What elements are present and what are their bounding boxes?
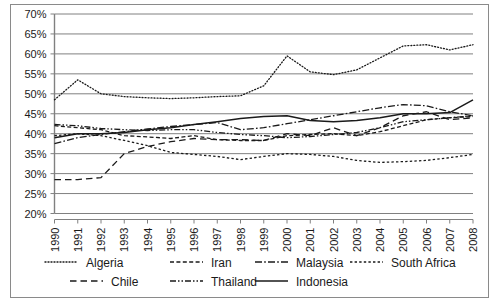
series-line-algeria	[55, 45, 474, 100]
y-axis-tick-label: 40%	[24, 128, 46, 140]
y-axis-tick-label: 50%	[24, 88, 46, 100]
legend-label: Malaysia	[296, 256, 344, 270]
x-axis-tick-label: 1995	[165, 228, 177, 252]
legend-label: Iran	[211, 256, 232, 270]
line-chart: 20%25%30%35%40%45%50%55%60%65%70%1990199…	[0, 0, 499, 307]
legend-item-malaysia[interactable]: Malaysia	[255, 256, 344, 270]
y-axis-tick-label: 25%	[24, 188, 46, 200]
y-axis-tick-label: 35%	[24, 148, 46, 160]
legend: AlgeriaIranMalaysiaSouth AfricaChileThai…	[45, 256, 456, 289]
series-line-thailand	[55, 116, 474, 138]
x-axis-tick-label: 1991	[72, 228, 84, 252]
x-axis-tick-label: 1996	[188, 228, 200, 252]
x-axis-tick-label: 1993	[118, 228, 130, 252]
legend-item-thailand[interactable]: Thailand	[170, 275, 257, 289]
legend-label: Algeria	[86, 256, 124, 270]
x-axis-tick-label: 1999	[258, 228, 270, 252]
series-group	[55, 45, 474, 180]
legend-item-south-africa[interactable]: South Africa	[350, 256, 456, 270]
x-axis-tick-label: 2008	[467, 228, 479, 252]
y-axis-tick-label: 60%	[24, 48, 46, 60]
series-line-south-africa	[55, 134, 474, 163]
legend-item-indonesia[interactable]: Indonesia	[255, 275, 348, 289]
y-axis-tick-label: 55%	[24, 68, 46, 80]
x-axis-tick-label: 1998	[235, 228, 247, 252]
y-axis-tick-labels: 20%25%30%35%40%45%50%55%60%65%70%	[24, 8, 46, 220]
x-axis-tick-label: 2004	[374, 228, 386, 252]
x-axis	[55, 220, 474, 224]
legend-item-chile[interactable]: Chile	[70, 275, 139, 289]
x-axis-tick-label: 1992	[95, 228, 107, 252]
x-axis-tick-label: 2005	[397, 228, 409, 252]
series-line-iran	[55, 117, 474, 141]
legend-label: South Africa	[391, 256, 456, 270]
y-axis-tick-label: 65%	[24, 28, 46, 40]
y-axis-tick-label: 20%	[24, 208, 46, 220]
x-axis-tick-label: 2006	[421, 228, 433, 252]
x-axis-tick-label: 1990	[49, 228, 61, 252]
y-axis	[51, 14, 55, 214]
x-axis-tick-label: 1997	[211, 228, 223, 252]
x-axis-tick-label: 2003	[351, 228, 363, 252]
y-axis-tick-label: 30%	[24, 168, 46, 180]
chart-figure: 20%25%30%35%40%45%50%55%60%65%70%1990199…	[0, 0, 499, 307]
legend-label: Chile	[111, 275, 139, 289]
y-axis-tick-label: 45%	[24, 108, 46, 120]
y-axis-tick-label: 70%	[24, 8, 46, 20]
series-line-chile	[55, 112, 474, 180]
x-axis-tick-label: 2007	[444, 228, 456, 252]
legend-item-iran[interactable]: Iran	[170, 256, 232, 270]
x-axis-tick-label: 2001	[304, 228, 316, 252]
legend-label: Thailand	[211, 275, 257, 289]
legend-item-algeria[interactable]: Algeria	[45, 256, 124, 270]
x-axis-tick-label: 2002	[328, 228, 340, 252]
x-axis-tick-label: 1994	[142, 228, 154, 252]
x-axis-tick-labels: 1990199119921993199419951996199719981999…	[49, 228, 480, 252]
x-axis-tick-label: 2000	[281, 228, 293, 252]
legend-label: Indonesia	[296, 275, 348, 289]
